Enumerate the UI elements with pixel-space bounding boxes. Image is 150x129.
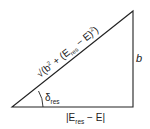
- triangle-diagram: √(b2 + (Eres − E)2) b δres |Eres − E|: [0, 0, 150, 129]
- angle-label: δres: [45, 92, 60, 105]
- right-triangle: [12, 11, 133, 107]
- angle-arc: [39, 91, 44, 107]
- vertical-side-label: b: [136, 52, 142, 64]
- base-label: |Eres − E|: [66, 112, 105, 125]
- hypotenuse-label: √(b2 + (Eres − E)2): [34, 24, 101, 81]
